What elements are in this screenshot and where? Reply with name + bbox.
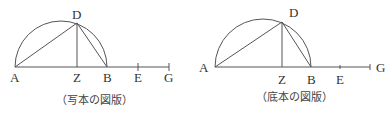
label-G: G — [376, 60, 385, 75]
figure-base-text: D A Z B E G （底本の図版） — [199, 5, 385, 104]
label-D: D — [72, 7, 81, 22]
label-B: B — [103, 70, 112, 85]
label-Z: Z — [278, 72, 286, 87]
segment-DB — [77, 23, 107, 67]
segment-DB — [282, 22, 311, 67]
semicircle-arc — [215, 19, 311, 67]
segment-AD — [215, 22, 282, 67]
figure-manuscript: D A Z B E G （写本の図版） — [10, 7, 173, 107]
caption-base-text: （底本の図版） — [256, 90, 333, 104]
label-E: E — [134, 70, 142, 85]
label-B: B — [307, 72, 316, 87]
semicircle-arc — [15, 21, 107, 67]
label-D: D — [289, 5, 298, 20]
diagram-canvas: D A Z B E G （写本の図版） D A Z B E G （底本の図版） — [0, 0, 391, 113]
caption-manuscript: （写本の図版） — [56, 93, 133, 107]
label-A: A — [10, 70, 20, 85]
label-Z: Z — [73, 70, 81, 85]
label-A: A — [199, 60, 209, 75]
label-G: G — [164, 70, 173, 85]
segment-AD — [15, 23, 77, 67]
label-E: E — [336, 72, 344, 87]
